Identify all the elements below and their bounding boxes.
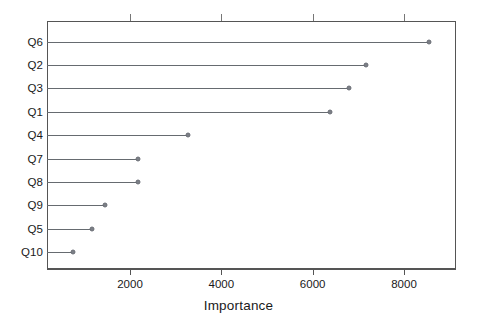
data-point-q7 xyxy=(135,156,140,161)
lollipop-stem xyxy=(47,112,330,113)
x-axis-tick-label: 6000 xyxy=(300,278,326,290)
x-axis-tick-label: 2000 xyxy=(117,278,143,290)
lollipop-stem xyxy=(47,205,105,206)
y-axis-label-q10: Q10 xyxy=(21,246,43,258)
x-axis-top-stub-tick xyxy=(313,14,314,21)
data-point-q8 xyxy=(136,179,141,184)
y-axis-label-q3: Q3 xyxy=(27,82,43,94)
x-axis-tick-label: 4000 xyxy=(209,278,235,290)
lollipop-stem xyxy=(47,88,349,89)
data-point-q6 xyxy=(426,39,431,44)
y-axis-label-q1: Q1 xyxy=(27,106,43,118)
data-point-q10 xyxy=(70,250,75,255)
x-axis-line xyxy=(47,269,456,270)
x-axis-top-stub-tick xyxy=(130,14,131,21)
data-point-q5 xyxy=(90,226,95,231)
lollipop-stem xyxy=(47,42,429,43)
y-axis-label-q8: Q8 xyxy=(27,176,43,188)
y-axis-label-q2: Q2 xyxy=(27,59,43,71)
x-axis-top-stub-tick xyxy=(404,14,405,21)
importance-lollipop-chart: Q6Q2Q3Q1Q4Q7Q8Q9Q5Q10 2000400060008000 I… xyxy=(0,0,477,329)
y-axis-label-q9: Q9 xyxy=(27,199,43,211)
x-axis-tick xyxy=(404,269,405,275)
y-axis-label-q4: Q4 xyxy=(27,129,43,141)
data-point-q2 xyxy=(363,62,368,67)
lollipop-stem xyxy=(47,252,73,253)
lollipop-stem xyxy=(47,135,188,136)
lollipop-stem xyxy=(47,229,92,230)
x-axis-top-stub-tick xyxy=(221,14,222,21)
x-axis-title: Importance xyxy=(0,298,477,313)
data-point-q9 xyxy=(103,203,108,208)
x-axis-tick xyxy=(130,269,131,275)
x-axis-tick xyxy=(313,269,314,275)
data-point-q1 xyxy=(328,109,333,114)
plot-panel xyxy=(47,21,456,269)
data-point-q4 xyxy=(186,133,191,138)
lollipop-stem xyxy=(47,159,138,160)
x-axis-tick-label: 8000 xyxy=(391,278,417,290)
lollipop-stem xyxy=(47,182,138,183)
lollipop-stem xyxy=(47,65,366,66)
y-axis-category-labels: Q6Q2Q3Q1Q4Q7Q8Q9Q5Q10 xyxy=(0,0,43,329)
y-axis-label-q5: Q5 xyxy=(27,223,43,235)
data-point-q3 xyxy=(346,86,351,91)
x-axis-tick xyxy=(221,269,222,275)
y-axis-label-q6: Q6 xyxy=(27,36,43,48)
y-axis-label-q7: Q7 xyxy=(27,153,43,165)
